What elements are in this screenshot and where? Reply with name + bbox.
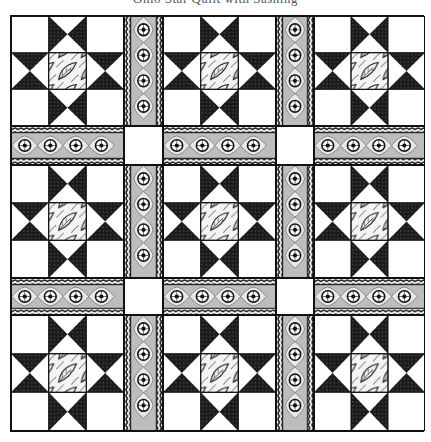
vertical-sashing-strip [276,165,314,278]
horizontal-sashing-strip [314,278,425,315]
horizontal-sashing-strip [11,278,124,315]
horizontal-sashing-strip [11,126,124,165]
ohio-star-block [314,16,425,126]
cornerstone-square [276,278,314,315]
figure-title: Ohio Star Quilt with Sashing [0,0,431,7]
ohio-star-block [314,165,425,278]
vertical-sashing-strip [124,16,163,126]
horizontal-sashing-strip [163,278,276,315]
cornerstone-square [124,278,163,315]
ohio-star-block [314,315,425,431]
vertical-sashing-strip [276,16,314,126]
ohio-star-block [163,315,276,431]
horizontal-sashing-strip [314,126,425,165]
vertical-sashing-strip [124,315,163,431]
vertical-sashing-strip [124,165,163,278]
cornerstone-square [276,126,314,165]
ohio-star-block [11,165,124,278]
ohio-star-block [163,16,276,126]
ohio-star-block [163,165,276,278]
ohio-star-block [11,16,124,126]
quilt-layout [10,15,424,432]
ohio-star-block [11,315,124,431]
horizontal-sashing-strip [163,126,276,165]
cornerstone-square [124,126,163,165]
vertical-sashing-strip [276,315,314,431]
